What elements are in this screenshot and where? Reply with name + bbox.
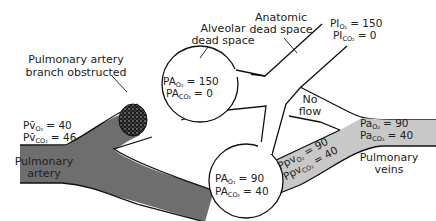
dead-space-diagram: Pulmonary artery branch obstructed Alveo… xyxy=(0,0,436,221)
label-anatomic-ds-2: dead space xyxy=(249,23,312,36)
label-pulmonary-artery-2: artery xyxy=(27,167,61,180)
label-alveolar-ds-2: dead space xyxy=(191,34,254,47)
clot-obstruction xyxy=(119,104,147,136)
label-pulmonary-veins-2: veins xyxy=(374,163,403,176)
svg-text:Pv̄CO₂= 46: Pv̄CO₂= 46 xyxy=(23,131,77,145)
label-obstructed-2: branch obstructed xyxy=(25,66,126,79)
label-obstructed-1: Pulmonary artery xyxy=(28,53,124,66)
svg-text:PICO₂= 0: PICO₂= 0 xyxy=(333,29,377,43)
mixed-venous-values: Pv̄O₂= 40 Pv̄CO₂= 46 xyxy=(23,119,77,145)
label-no-flow-2: flow xyxy=(299,105,322,118)
svg-text:PAO₂= 90: PAO₂= 90 xyxy=(215,172,264,186)
inspired-values: PIO₂= 150 PICO₂= 0 xyxy=(330,17,382,43)
no-flow-vessel-lower xyxy=(289,116,340,130)
pointer-anatomic-dead-space xyxy=(284,38,297,53)
